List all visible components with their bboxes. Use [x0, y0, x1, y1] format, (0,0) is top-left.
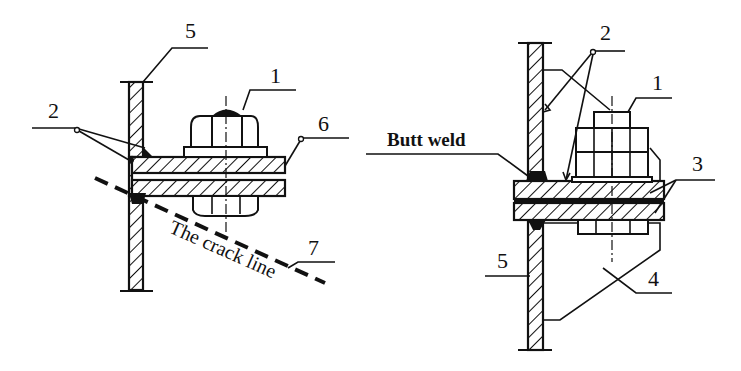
- label-3-right: 3: [692, 151, 703, 176]
- stiffener-outline: [543, 223, 660, 320]
- gusset-plates: [514, 181, 664, 220]
- label-2-right: 2: [600, 20, 611, 45]
- label-1-right: 1: [652, 70, 663, 95]
- label-5-right: 5: [497, 248, 508, 273]
- label-5-left: 5: [185, 18, 196, 43]
- diagram-canvas: The crack line 5 1 2 6 7: [0, 0, 741, 371]
- label-7-left: 7: [308, 235, 319, 260]
- crack-line-annotation: The crack line: [166, 216, 280, 283]
- left-figure: The crack line 5 1 2 6 7: [32, 18, 349, 291]
- bolt-assembly-right: [572, 96, 652, 262]
- label-4-right: 4: [648, 266, 659, 291]
- label-6-left: 6: [318, 111, 329, 136]
- right-figure: 2 1 Butt weld 3 5 4: [366, 20, 715, 350]
- butt-weld-annotation: Butt weld: [387, 129, 466, 150]
- label-1-left: 1: [270, 63, 281, 88]
- bolted-plates: [132, 157, 285, 196]
- label-2-left: 2: [48, 98, 59, 123]
